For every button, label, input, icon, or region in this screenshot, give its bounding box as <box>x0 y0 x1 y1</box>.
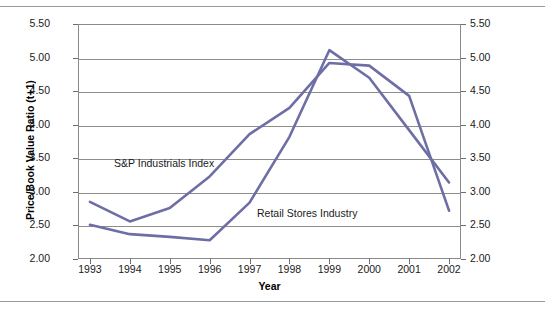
y-tick-label-left: 2.00 <box>30 253 50 264</box>
y-tick-label-right: 3.50 <box>470 152 490 163</box>
y-tick-label-right: 4.50 <box>470 85 490 96</box>
y-tick-label-right: 5.00 <box>470 52 490 63</box>
x-axis-title: Year <box>78 280 461 292</box>
y-tick-label-left: 3.00 <box>30 186 50 197</box>
y-tick-label-left: 2.50 <box>30 219 50 230</box>
y-tick-mark-left <box>73 192 78 193</box>
series-lines <box>78 24 461 259</box>
y-tick-label-left: 5.00 <box>30 52 50 63</box>
y-tick-label-left: 4.50 <box>30 85 50 96</box>
y-tick-mark-right <box>461 24 466 25</box>
y-tick-label-left: 3.50 <box>30 152 50 163</box>
y-tick-label-left: 4.00 <box>30 119 50 130</box>
y-tick-label-right: 5.50 <box>470 18 490 29</box>
y-tick-label-right: 2.50 <box>470 219 490 230</box>
y-tick-label-right: 2.00 <box>470 253 490 264</box>
y-tick-mark-right <box>461 125 466 126</box>
y-tick-mark-left <box>73 58 78 59</box>
y-tick-mark-right <box>461 158 466 159</box>
y-tick-mark-left <box>73 91 78 92</box>
y-tick-label-right: 4.00 <box>470 119 490 130</box>
series-label-sp-industrials: S&P Industrials Index <box>114 157 214 169</box>
y-tick-mark-left <box>73 158 78 159</box>
y-tick-mark-right <box>461 58 466 59</box>
series-line <box>90 63 449 221</box>
y-tick-mark-right <box>461 225 466 226</box>
y-tick-mark-left <box>73 225 78 226</box>
y-tick-mark-right <box>461 259 466 260</box>
bottom-divider-rule <box>0 301 545 302</box>
y-tick-mark-right <box>461 192 466 193</box>
y-tick-mark-left <box>73 24 78 25</box>
top-divider-rule <box>0 6 545 7</box>
y-tick-label-right: 3.00 <box>470 186 490 197</box>
series-label-retail-stores: Retail Stores Industry <box>257 207 357 219</box>
y-tick-label-left: 5.50 <box>30 18 50 29</box>
y-tick-mark-right <box>461 91 466 92</box>
chart-figure: Price/Book Value Ratio (t+1) 2.002.503.0… <box>0 0 545 312</box>
y-tick-mark-left <box>73 259 78 260</box>
y-tick-mark-left <box>73 125 78 126</box>
x-tick-label: 2002 <box>426 264 472 275</box>
